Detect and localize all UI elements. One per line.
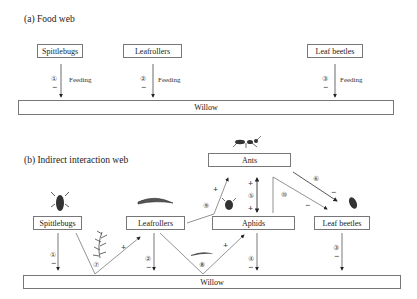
edge-9-sign-b: + (213, 185, 218, 194)
edge-5-sign-top: + (248, 179, 253, 188)
edge-7-id-b: ⑦ (93, 262, 99, 269)
edge-10-sign-b: − (305, 201, 310, 210)
leafroller-icon (138, 198, 173, 204)
edge-10-id-b: ⑩ (281, 192, 287, 199)
aphid-icon (222, 198, 236, 210)
leaf-beetle-icon (347, 196, 358, 210)
edge-7-sign-b: + (121, 243, 126, 252)
panel-b-arrows (0, 0, 417, 299)
edge-6-sign-b: − (331, 188, 336, 197)
edge-4-sign-b: − (248, 263, 253, 272)
edge-8-id-b: ⑧ (199, 262, 205, 269)
edge-3-sign-b: − (334, 252, 339, 261)
edge-5-id-b: ⑤ (248, 193, 254, 200)
edge-9-id-b: ⑨ (203, 203, 209, 210)
edge-6-id-b: ⑥ (313, 176, 319, 183)
willow-sprig-icon (93, 231, 107, 258)
edge-2-sign-b: − (146, 263, 151, 272)
spittlebug-icon (51, 192, 69, 211)
edge-5-sign-bottom: + (248, 204, 253, 213)
edge-1-sign-b: − (51, 259, 56, 268)
edge-8-sign-b: + (223, 241, 228, 250)
ant-icon (233, 136, 261, 148)
leafroller-larva-icon (191, 252, 214, 256)
